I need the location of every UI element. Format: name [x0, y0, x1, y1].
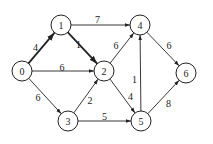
node-label: 6	[184, 68, 189, 79]
edge-weight-label: 8	[166, 98, 171, 109]
edge-line	[147, 32, 179, 66]
edge-line	[140, 35, 141, 111]
edge-line	[68, 32, 97, 63]
edge-weight-label: 5	[102, 111, 107, 122]
edge-line	[148, 80, 179, 113]
node-0: 0	[12, 61, 32, 81]
node-2: 2	[94, 61, 114, 81]
node-3: 3	[58, 111, 78, 131]
edge-line	[29, 78, 61, 113]
edge-1-2	[68, 32, 97, 63]
node-6: 6	[176, 63, 196, 83]
edge-0-3	[29, 78, 61, 113]
node-label: 1	[59, 20, 64, 31]
node-5: 5	[131, 111, 151, 131]
edge-weight-label: 6	[114, 40, 119, 51]
node-label: 2	[102, 66, 107, 77]
node-1: 1	[51, 15, 71, 35]
edge-weight-label: 4	[128, 91, 133, 102]
node-label: 5	[139, 116, 144, 127]
edge-line	[74, 79, 98, 113]
edge-5-6	[148, 80, 179, 113]
edge-3-2	[74, 79, 98, 113]
edge-weight-label: 7	[95, 14, 100, 25]
edge-weight-label: 6	[36, 92, 41, 103]
node-label: 4	[138, 20, 143, 31]
node-4: 4	[130, 15, 150, 35]
edge-4-6	[147, 32, 179, 66]
node-label: 0	[20, 66, 25, 77]
edge-weight-label: 6	[167, 40, 172, 51]
edge-weight-label: 1	[76, 39, 81, 50]
node-label: 3	[66, 116, 71, 127]
edge-5-4	[140, 35, 141, 111]
graph-diagram: 416766254168 0123456	[0, 0, 213, 144]
edge-weight-label: 6	[60, 62, 65, 73]
edge-weight-label: 2	[88, 95, 93, 106]
edge-weight-label: 4	[33, 42, 38, 53]
edge-weight-label: 1	[132, 74, 137, 85]
